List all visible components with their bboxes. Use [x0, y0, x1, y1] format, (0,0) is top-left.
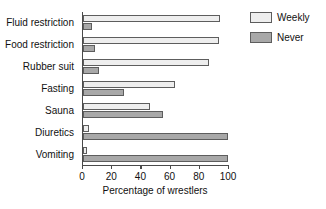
y-axis-label: Vomiting — [0, 143, 78, 165]
y-axis-labels: Fluid restriction Food restriction Rubbe… — [0, 12, 78, 165]
bar-weekly — [83, 37, 219, 44]
x-axis-tick — [199, 165, 200, 169]
bar-weekly — [83, 147, 87, 154]
y-axis-label: Sauna — [0, 99, 78, 121]
bar-weekly — [83, 81, 175, 88]
x-axis-tick — [111, 165, 112, 169]
bar-weekly — [83, 15, 220, 22]
bar-group — [83, 99, 229, 121]
plot-area — [82, 12, 229, 165]
bar-never — [83, 133, 228, 140]
x-axis-tick — [140, 165, 141, 169]
bar-group — [83, 78, 229, 100]
y-axis-label: Fasting — [0, 78, 78, 100]
y-axis-label: Fluid restriction — [0, 12, 78, 34]
legend-swatch-icon — [250, 32, 272, 43]
bar-group — [83, 143, 229, 165]
legend-item-weekly: Weekly — [250, 12, 324, 23]
bar-never — [83, 89, 124, 96]
x-axis-tick-label: 0 — [79, 171, 85, 183]
bar-group — [83, 56, 229, 78]
x-axis-tick-label: 40 — [135, 171, 146, 183]
y-axis-label: Rubber suit — [0, 56, 78, 78]
bar-never — [83, 23, 92, 30]
x-axis-tick-label: 20 — [106, 171, 117, 183]
x-axis-title: Percentage of wrestlers — [82, 185, 228, 197]
legend-swatch-icon — [250, 12, 272, 23]
legend: Weekly Never — [250, 12, 324, 52]
legend-label: Never — [277, 32, 304, 43]
x-axis-tick-labels: 020406080100 — [82, 171, 228, 183]
bar-group — [83, 34, 229, 56]
y-axis-label: Food restriction — [0, 34, 78, 56]
x-axis-ticks — [82, 165, 228, 170]
bar-rows — [83, 12, 229, 165]
bar-never — [83, 45, 95, 52]
legend-item-never: Never — [250, 32, 324, 43]
bar-chart: Fluid restriction Food restriction Rubbe… — [0, 0, 326, 209]
bar-weekly — [83, 59, 209, 66]
x-axis-tick-label: 80 — [193, 171, 204, 183]
legend-label: Weekly — [277, 12, 310, 23]
bar-group — [83, 121, 229, 143]
bar-never — [83, 111, 163, 118]
x-axis-tick — [228, 165, 229, 169]
x-axis-tick-label: 60 — [164, 171, 175, 183]
bar-weekly — [83, 103, 150, 110]
bar-weekly — [83, 125, 89, 132]
bar-never — [83, 155, 228, 162]
x-axis-tick-label: 100 — [220, 171, 237, 183]
x-axis-tick — [170, 165, 171, 169]
bar-group — [83, 12, 229, 34]
y-axis-label: Diuretics — [0, 121, 78, 143]
x-axis-tick — [82, 165, 83, 169]
bar-never — [83, 67, 99, 74]
